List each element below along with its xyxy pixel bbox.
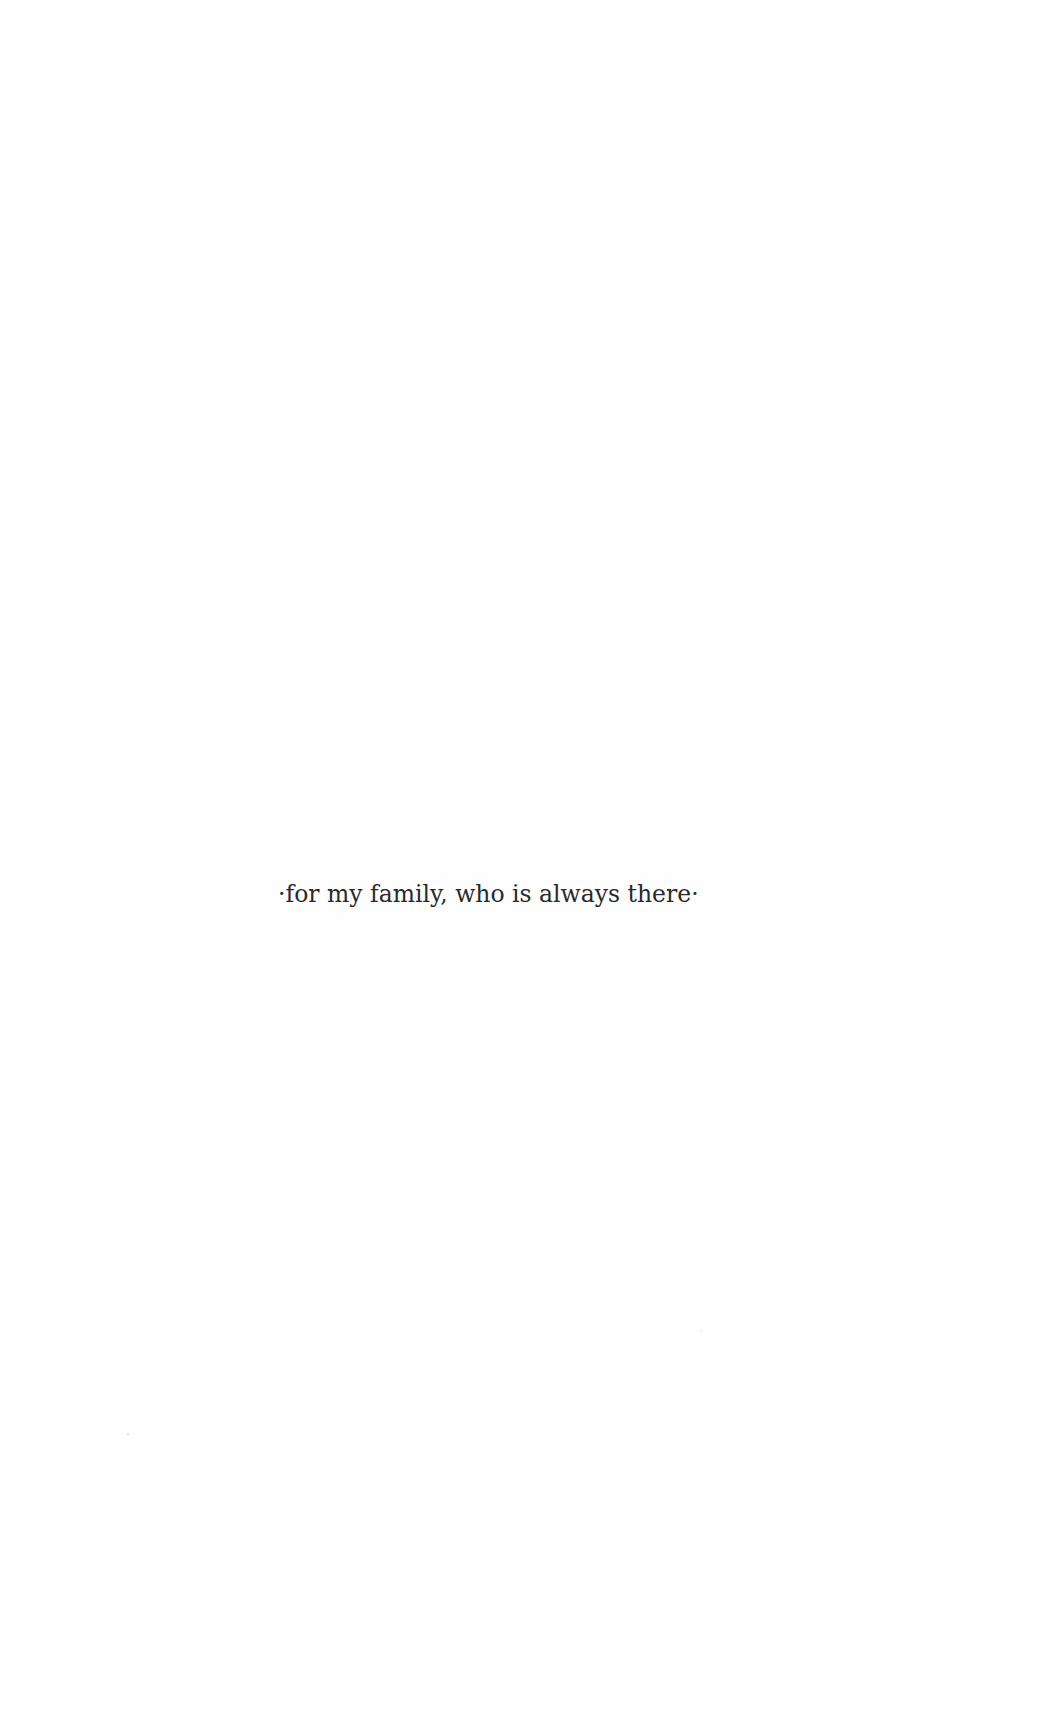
- scan-speck: [127, 1433, 129, 1435]
- dedication-text: ·for my family, who is always there·: [278, 876, 710, 912]
- book-page: ·for my family, who is always there·: [0, 0, 1040, 1728]
- scan-speck: [700, 1330, 702, 1332]
